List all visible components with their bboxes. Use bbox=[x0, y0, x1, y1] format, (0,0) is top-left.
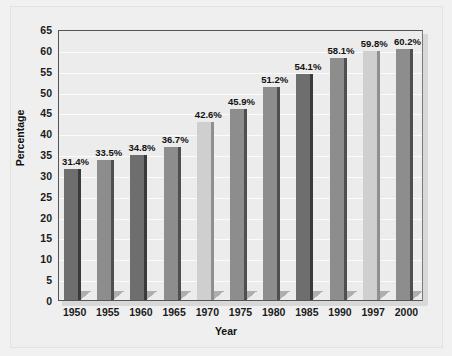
plot-side-shadow bbox=[423, 34, 428, 305]
bar: 31.4% bbox=[64, 169, 81, 300]
bar-body bbox=[97, 160, 114, 300]
bar-side-edge bbox=[310, 74, 313, 300]
bar-value-label: 60.2% bbox=[384, 36, 430, 47]
bar-side-edge bbox=[377, 51, 380, 300]
bar-body bbox=[396, 49, 413, 300]
bar-face bbox=[64, 169, 78, 300]
y-axis-title: Percentage bbox=[14, 78, 26, 198]
bar-body bbox=[64, 169, 81, 300]
bar-body bbox=[263, 87, 280, 300]
bar-body bbox=[164, 147, 181, 300]
bar: 33.5% bbox=[97, 160, 114, 300]
bar-face bbox=[164, 147, 178, 300]
bar: 54.1% bbox=[296, 74, 313, 300]
bar-base-shadow bbox=[181, 291, 192, 300]
bar-body bbox=[296, 74, 313, 300]
bar-base-shadow bbox=[81, 291, 92, 300]
bar-side-edge bbox=[410, 49, 413, 300]
bar-body bbox=[130, 155, 147, 300]
bar-face bbox=[330, 58, 344, 300]
bar-face bbox=[97, 160, 111, 300]
chart-figure: Percentage 05101520253035404550556065 31… bbox=[0, 0, 452, 356]
bar-face bbox=[396, 49, 410, 300]
bar-body bbox=[230, 109, 247, 300]
bar: 60.2% bbox=[396, 49, 413, 300]
bar-base-shadow bbox=[347, 291, 358, 300]
bar-base-shadow bbox=[280, 291, 291, 300]
bar-base-shadow bbox=[413, 291, 424, 300]
bar-face bbox=[363, 51, 377, 300]
bar-face bbox=[130, 155, 144, 300]
bar-side-edge bbox=[111, 160, 114, 300]
bar-value-label: 42.6% bbox=[185, 109, 231, 120]
x-axis-title: Year bbox=[0, 325, 452, 337]
bar-base-shadow bbox=[380, 291, 391, 300]
bar-body bbox=[363, 51, 380, 300]
bar-face bbox=[296, 74, 310, 300]
bar-body bbox=[197, 122, 214, 300]
bar: 59.8% bbox=[363, 51, 380, 300]
bar-value-label: 54.1% bbox=[285, 61, 331, 72]
bar-side-edge bbox=[244, 109, 247, 300]
bar-value-label: 45.9% bbox=[219, 96, 265, 107]
bar: 34.8% bbox=[130, 155, 147, 300]
bar-face bbox=[263, 87, 277, 300]
bar-body bbox=[330, 58, 347, 300]
bar-side-edge bbox=[144, 155, 147, 300]
bar-base-shadow bbox=[313, 291, 324, 300]
bar: 58.1% bbox=[330, 58, 347, 300]
bar-value-label: 36.7% bbox=[152, 134, 198, 145]
bar: 42.6% bbox=[197, 122, 214, 300]
bar-base-shadow bbox=[214, 291, 225, 300]
bar-side-edge bbox=[78, 169, 81, 300]
bar-side-edge bbox=[344, 58, 347, 300]
bar-value-label: 51.2% bbox=[252, 74, 298, 85]
bar-side-edge bbox=[178, 147, 181, 300]
bar-base-shadow bbox=[247, 291, 258, 300]
bar: 51.2% bbox=[263, 87, 280, 300]
bar-base-shadow bbox=[114, 291, 125, 300]
bar: 45.9% bbox=[230, 109, 247, 300]
bar: 36.7% bbox=[164, 147, 181, 300]
plot-area: 31.4%33.5%34.8%36.7%42.6%45.9%51.2%54.1%… bbox=[58, 30, 423, 301]
x-tick-label: 2000 bbox=[386, 306, 426, 318]
bar-side-edge bbox=[277, 87, 280, 300]
bar-face bbox=[230, 109, 244, 300]
bar-side-edge bbox=[211, 122, 214, 300]
bar-base-shadow bbox=[147, 291, 158, 300]
bar-face bbox=[197, 122, 211, 300]
